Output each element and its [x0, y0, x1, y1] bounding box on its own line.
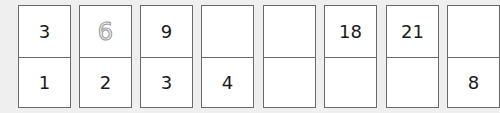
card-5: [263, 5, 316, 108]
card-7: 21: [386, 5, 439, 108]
multiplier-cell: 3: [141, 57, 192, 107]
product-cell: 18: [325, 6, 376, 58]
product-cell-traced[interactable]: 6: [80, 6, 131, 58]
multiplier-cell: 1: [19, 57, 70, 107]
multiplier-cell-empty[interactable]: [325, 57, 376, 107]
card-2: 6 2: [79, 5, 132, 108]
multiplier-cell: 4: [202, 57, 253, 107]
multiplier-cell-empty[interactable]: [264, 57, 315, 107]
multiplier-cell: 8: [448, 57, 499, 107]
product-cell-empty[interactable]: [202, 6, 253, 58]
card-8: 8: [447, 5, 500, 108]
product-cell-empty[interactable]: [264, 6, 315, 58]
product-cell[interactable]: 9: [141, 6, 192, 58]
product-cell[interactable]: 3: [19, 6, 70, 58]
multiplier-cell: 2: [80, 57, 131, 107]
product-cell: 21: [387, 6, 438, 58]
card-6: 18: [324, 5, 377, 108]
card-1: 3 1: [18, 5, 71, 108]
card-4: 4: [201, 5, 254, 108]
multiplier-cell-empty[interactable]: [387, 57, 438, 107]
card-3: 9 3: [140, 5, 193, 108]
product-cell-empty[interactable]: [448, 6, 499, 58]
